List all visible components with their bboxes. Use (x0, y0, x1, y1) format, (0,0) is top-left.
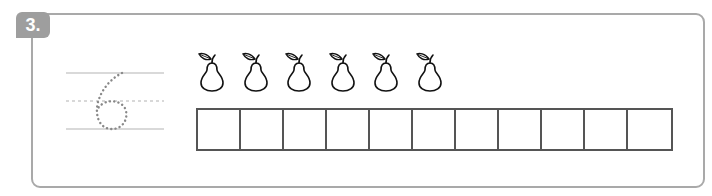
pear-icon (240, 50, 272, 92)
pear-icon (327, 50, 359, 92)
answer-box[interactable] (499, 110, 542, 149)
answer-box[interactable] (284, 110, 327, 149)
answer-box-grid (196, 108, 673, 151)
digit-tracing-guide[interactable] (64, 64, 166, 134)
pear-icon (196, 50, 228, 92)
answer-box[interactable] (413, 110, 456, 149)
pear-icon (370, 50, 402, 92)
exercise-number-badge: 3. (16, 12, 50, 38)
answer-box[interactable] (456, 110, 499, 149)
answer-box[interactable] (370, 110, 413, 149)
answer-box[interactable] (198, 110, 241, 149)
answer-box[interactable] (327, 110, 370, 149)
pear-row (196, 50, 446, 92)
answer-box[interactable] (241, 110, 284, 149)
answer-box[interactable] (585, 110, 628, 149)
answer-box[interactable] (628, 110, 671, 149)
answer-box[interactable] (542, 110, 585, 149)
pear-icon (414, 50, 446, 92)
pear-icon (283, 50, 315, 92)
